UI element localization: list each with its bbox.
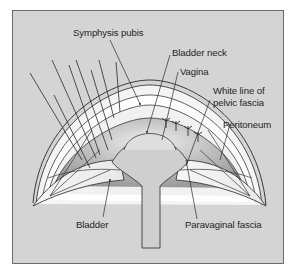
- label-symphysis-pubis: Symphysis pubis: [73, 27, 143, 38]
- label-white-line-2: pelvic fascia: [213, 97, 264, 108]
- label-bladder: Bladder: [76, 219, 108, 230]
- label-peritoneum: Peritoneum: [223, 119, 271, 130]
- label-bladder-neck: Bladder neck: [172, 47, 227, 58]
- label-vagina: Vagina: [180, 66, 209, 77]
- label-paravaginal-fascia: Paravaginal fascia: [185, 219, 262, 230]
- label-white-line-1: White line of: [213, 85, 265, 96]
- pelvic-floor-illustration: [0, 0, 295, 276]
